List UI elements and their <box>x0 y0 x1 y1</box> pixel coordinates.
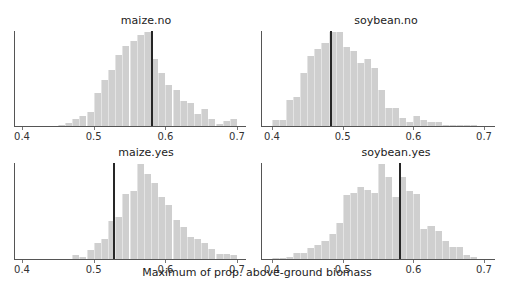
histogram-bar <box>165 205 172 259</box>
histogram-bar <box>130 41 137 126</box>
histogram-bar <box>399 118 406 126</box>
histogram-bar <box>87 250 94 259</box>
panel-title: maize.yes <box>118 146 174 159</box>
histogram-bar <box>307 56 314 127</box>
histogram-bar <box>286 100 293 126</box>
x-tick-label: 0.5 <box>86 131 102 142</box>
x-tick <box>22 260 23 263</box>
histogram-bar <box>364 59 371 126</box>
x-axis-line <box>261 126 495 127</box>
x-tick-label: 0.5 <box>86 264 102 275</box>
histogram-bar <box>321 43 328 126</box>
x-tick-label: 0.6 <box>157 131 173 142</box>
histogram-bar <box>173 220 180 259</box>
histogram-bar <box>378 90 385 126</box>
x-tick <box>343 127 344 130</box>
histogram-bar <box>427 226 434 259</box>
histogram-bar <box>94 93 101 126</box>
histogram-bar <box>194 114 201 126</box>
x-tick <box>165 260 166 263</box>
histogram-bar <box>343 47 350 126</box>
histogram-bar <box>364 190 371 259</box>
histogram-bar <box>357 63 364 126</box>
x-tick-label: 0.7 <box>229 131 245 142</box>
histogram-bar <box>201 109 208 126</box>
panel-title: soybean.no <box>354 14 418 27</box>
x-axis-line <box>14 126 246 127</box>
x-tick <box>272 127 273 130</box>
histogram-bar <box>122 46 129 126</box>
histogram-bar <box>230 119 237 126</box>
histogram-bar <box>208 249 215 259</box>
x-tick-label: 0.4 <box>14 264 30 275</box>
histogram-bar <box>194 239 201 259</box>
histogram-bar <box>378 164 385 259</box>
histogram-bar <box>180 101 187 126</box>
histogram-bar <box>144 174 151 260</box>
histogram-bar <box>449 247 456 259</box>
shared-x-axis-label: Maximum of prop. above-ground biomass <box>142 266 372 279</box>
histogram-bar <box>151 183 158 259</box>
histogram-bar <box>371 193 378 260</box>
x-tick-label: 0.7 <box>476 264 492 275</box>
histogram-bar <box>180 227 187 259</box>
histogram-bar <box>307 248 314 259</box>
histogram-bar <box>115 55 122 126</box>
x-tick-label: 0.7 <box>476 131 492 142</box>
histogram-bar <box>87 112 94 126</box>
histogram-bar <box>173 90 180 126</box>
histogram-bar <box>314 245 321 259</box>
x-tick <box>237 127 238 130</box>
x-tick <box>272 260 273 263</box>
histogram-bar <box>187 103 194 126</box>
x-tick-label: 0.4 <box>14 131 30 142</box>
histogram-bar <box>115 217 122 259</box>
histogram-bar <box>350 51 357 126</box>
reference-line <box>113 163 115 259</box>
histogram-bar <box>208 119 215 126</box>
panel-title: soybean.yes <box>362 146 431 159</box>
histogram-bar <box>101 80 108 126</box>
histogram-bar <box>371 68 378 126</box>
histogram-bar <box>158 73 165 126</box>
x-tick <box>94 127 95 130</box>
x-tick <box>22 127 23 130</box>
x-axis-line <box>14 259 246 260</box>
histogram-bar <box>130 191 137 259</box>
histogram-bar <box>336 32 343 126</box>
histogram-bar <box>314 49 321 126</box>
reference-line <box>151 31 153 126</box>
histogram-bar <box>321 241 328 259</box>
y-axis-line <box>14 163 15 260</box>
histogram-bar <box>137 164 144 259</box>
histogram-bar <box>79 116 86 126</box>
histogram-bar <box>187 237 194 259</box>
x-tick <box>165 127 166 130</box>
reference-line <box>399 163 401 259</box>
x-tick <box>237 260 238 263</box>
histogram-bar <box>293 97 300 126</box>
x-tick-label: 0.6 <box>405 264 421 275</box>
x-tick <box>343 260 344 263</box>
x-tick <box>413 260 414 263</box>
reference-line <box>330 31 332 126</box>
histogram-bar <box>343 195 350 259</box>
x-tick <box>484 127 485 130</box>
histogram-bar <box>201 243 208 259</box>
histogram-bar <box>385 177 392 259</box>
histogram-bar <box>385 108 392 126</box>
histogram-bar <box>413 116 420 126</box>
panel-title: maize.no <box>121 14 171 27</box>
x-tick-label: 0.6 <box>405 131 421 142</box>
histogram-bar <box>300 73 307 126</box>
x-tick <box>484 260 485 263</box>
x-axis-line <box>261 259 495 260</box>
histogram-bar <box>108 70 115 126</box>
histogram-bar <box>456 247 463 259</box>
x-tick-label: 0.5 <box>335 131 351 142</box>
histogram-bar <box>101 239 108 259</box>
histogram-bar <box>165 85 172 126</box>
y-axis-line <box>14 31 15 127</box>
histogram-bar <box>413 194 420 259</box>
histogram-bar <box>336 223 343 259</box>
